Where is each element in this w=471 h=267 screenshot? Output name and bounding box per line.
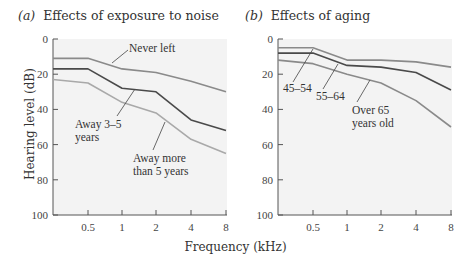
- x-tick-label: 1: [119, 221, 125, 233]
- panel-a-plot: 0204060801000.51248 Never left Away 3–5 …: [32, 33, 230, 233]
- y-tick-label: 0: [268, 33, 274, 45]
- y-tick-label: 100: [257, 209, 274, 221]
- label-55-64: 55–64: [316, 90, 345, 102]
- x-tick-label: 4: [188, 221, 194, 233]
- label-away-3-5-line1: Away 3–5: [75, 118, 122, 131]
- label-45-54: 45–54: [283, 82, 312, 94]
- label-never-left: Never left: [129, 42, 176, 54]
- y-tick-label: 40: [37, 103, 49, 115]
- y-tick-label: 20: [262, 68, 274, 80]
- x-tick-label: 0.5: [306, 221, 320, 233]
- x-tick-label: 2: [153, 221, 159, 233]
- y-tick-label: 80: [262, 174, 274, 186]
- y-tick-label: 40: [262, 103, 274, 115]
- label-away-more-line1: Away more: [133, 152, 186, 165]
- x-tick-label: 2: [378, 221, 384, 233]
- chart-canvas: 0204060801000.51248 Never left Away 3–5 …: [0, 0, 471, 267]
- y-tick-label: 60: [37, 139, 49, 151]
- x-tick-label: 8: [448, 221, 454, 233]
- label-away-3-5-line2: years: [75, 131, 100, 144]
- x-tick-label: 8: [223, 221, 229, 233]
- x-tick-label: 4: [413, 221, 419, 233]
- label-away-more-line2: than 5 years: [133, 165, 189, 178]
- label-over-65-line1: Over 65: [352, 104, 390, 116]
- y-tick-label: 100: [32, 209, 49, 221]
- y-tick-label: 0: [43, 33, 49, 45]
- y-tick-label: 80: [37, 174, 49, 186]
- y-tick-label: 20: [37, 68, 49, 80]
- panel-b-plot: 0204060801000.51248 45–54 55–64 Over 65 …: [257, 33, 455, 233]
- y-tick-label: 60: [262, 139, 274, 151]
- x-tick-label: 0.5: [81, 221, 95, 233]
- x-tick-label: 1: [344, 221, 350, 233]
- label-over-65-line2: years old: [352, 117, 394, 130]
